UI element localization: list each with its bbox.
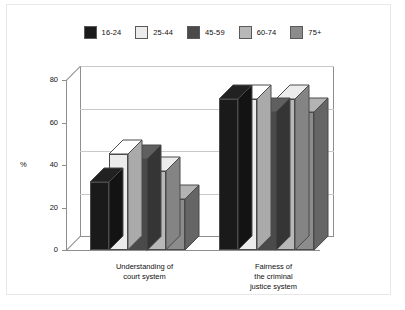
legend-label: 25-44 — [153, 29, 173, 37]
legend-item: 45-59 — [187, 26, 225, 39]
legend-item: 16-24 — [84, 26, 122, 39]
bar-16-24-group2 — [219, 99, 238, 250]
y-axis-label: % — [20, 161, 27, 169]
y-tick-label: 40 — [36, 161, 58, 169]
legend-swatch-60-74 — [239, 26, 252, 39]
bar-side-face — [276, 98, 292, 252]
y-tick-label: 60 — [36, 119, 58, 127]
legend-label: 45-59 — [205, 29, 225, 37]
bar-16-24-group1 — [90, 182, 109, 250]
bar-front-face — [219, 99, 238, 250]
legend-item: 25-44 — [135, 26, 173, 39]
legend-item: 60-74 — [239, 26, 277, 39]
bar-front-face — [90, 182, 109, 250]
category-label-line: justice system — [214, 282, 334, 292]
bar-side-face — [109, 168, 125, 252]
bar-side-face — [147, 145, 163, 252]
legend-swatch-16-24 — [84, 26, 97, 39]
legend-label: 60-74 — [257, 29, 277, 37]
legend-item: 75+ — [290, 26, 321, 39]
plot-area: 020406080 Understanding ofcourt systemFa… — [58, 66, 348, 256]
legend-label: 75+ — [308, 29, 321, 37]
y-tick-label: 20 — [36, 204, 58, 212]
category-label-line: Understanding of — [85, 262, 205, 272]
bar-side-face — [185, 185, 201, 252]
legend-swatch-25-44 — [135, 26, 148, 39]
category-label-1: Understanding ofcourt system — [85, 262, 205, 282]
category-label-line: court system — [85, 272, 205, 282]
gridline-80 — [80, 66, 334, 67]
category-label-line: the criminal — [214, 272, 334, 282]
chart-page: 16-2425-4445-5960-7475+ 020406080 Unders… — [0, 0, 405, 310]
bar-side-face — [128, 140, 144, 252]
y-tick-label: 80 — [36, 76, 58, 84]
bar-side-face — [238, 85, 254, 252]
category-label-2: Fairness ofthe criminaljustice system — [214, 262, 334, 292]
y-tick-40 — [62, 165, 66, 166]
bar-side-face — [166, 157, 182, 252]
legend-swatch-45-59 — [187, 26, 200, 39]
bar-side-face — [295, 85, 311, 252]
legend-label: 16-24 — [102, 29, 122, 37]
legend-swatch-75plus — [290, 26, 303, 39]
y-axis-front-edge — [66, 80, 67, 250]
bar-side-face — [257, 85, 273, 252]
bar-side-face — [314, 98, 330, 252]
chart-legend: 16-2425-4445-5960-7475+ — [0, 26, 405, 39]
y-tick-60 — [62, 123, 66, 124]
axis-depth-connector-top — [66, 66, 81, 81]
y-tick-label: 0 — [36, 246, 58, 254]
axis-depth-connector-base — [66, 236, 81, 251]
category-label-line: Fairness of — [214, 262, 334, 272]
y-tick-20 — [62, 208, 66, 209]
